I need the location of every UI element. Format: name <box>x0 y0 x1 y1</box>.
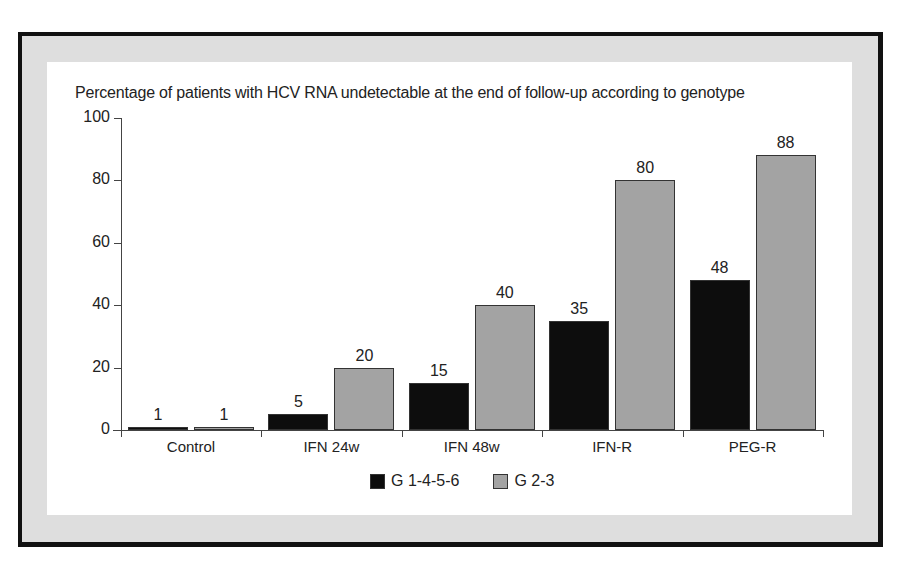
chart-title: Percentage of patients with HCV RNA unde… <box>75 84 745 102</box>
data-label: 1 <box>194 406 254 424</box>
bar-g-2-3 <box>756 155 816 430</box>
y-tick-label: 60 <box>70 233 110 251</box>
y-tick <box>114 243 121 244</box>
legend-swatch-icon <box>370 474 385 489</box>
x-axis <box>113 430 824 431</box>
data-label: 5 <box>268 393 328 411</box>
y-axis <box>121 118 122 431</box>
y-tick-label: 80 <box>70 170 110 188</box>
x-tick <box>542 430 543 437</box>
legend-label: G 2-3 <box>514 472 554 490</box>
y-tick-label: 100 <box>70 108 110 126</box>
x-tick-label: IFN 24w <box>261 438 401 455</box>
x-tick <box>121 430 122 437</box>
bar-g-2-3 <box>475 305 535 430</box>
bar-g-1-4-5-6 <box>549 321 609 430</box>
legend-item-series-1: G 2-3 <box>493 472 554 490</box>
y-tick <box>114 305 121 306</box>
y-tick-label: 0 <box>70 420 110 438</box>
y-tick <box>114 180 121 181</box>
bar-g-1-4-5-6 <box>128 427 188 430</box>
y-tick-label: 20 <box>70 358 110 376</box>
legend-swatch-icon <box>493 474 508 489</box>
data-label: 40 <box>475 284 535 302</box>
data-label: 15 <box>409 362 469 380</box>
data-label: 35 <box>549 300 609 318</box>
x-tick <box>402 430 403 437</box>
legend: G 1-4-5-6 G 2-3 <box>370 472 588 490</box>
x-tick-label: IFN 48w <box>402 438 542 455</box>
legend-label: G 1-4-5-6 <box>391 472 459 490</box>
data-label: 1 <box>128 406 188 424</box>
x-tick <box>823 430 824 437</box>
bar-g-2-3 <box>334 368 394 430</box>
y-tick-label: 40 <box>70 295 110 313</box>
y-tick <box>114 430 121 431</box>
bar-g-2-3 <box>194 427 254 430</box>
bar-g-1-4-5-6 <box>690 280 750 430</box>
y-tick <box>114 368 121 369</box>
x-tick-label: Control <box>121 438 261 455</box>
data-label: 20 <box>334 347 394 365</box>
x-tick-label: PEG-R <box>683 438 823 455</box>
x-tick-label: IFN-R <box>542 438 682 455</box>
data-label: 80 <box>615 159 675 177</box>
y-tick <box>114 118 121 119</box>
data-label: 48 <box>690 259 750 277</box>
x-tick <box>683 430 684 437</box>
data-label: 88 <box>756 134 816 152</box>
legend-item-series-0: G 1-4-5-6 <box>370 472 459 490</box>
bar-g-2-3 <box>615 180 675 430</box>
bar-g-1-4-5-6 <box>409 383 469 430</box>
bar-g-1-4-5-6 <box>268 414 328 430</box>
x-tick <box>261 430 262 437</box>
